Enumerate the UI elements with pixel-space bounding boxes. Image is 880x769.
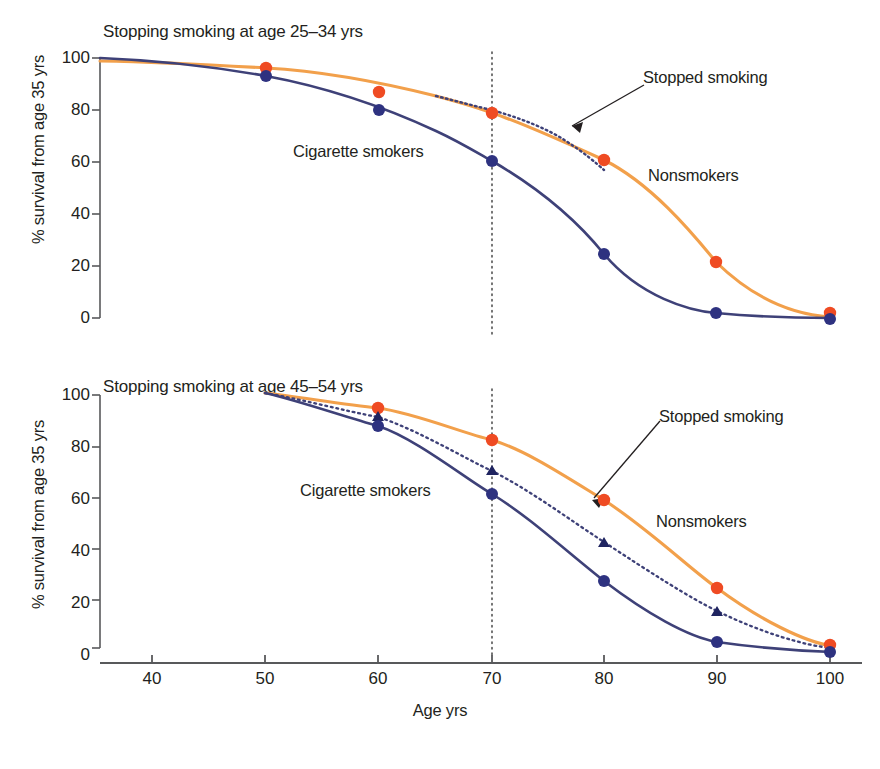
chart-panel-top: Stopping smoking at age 25–34 yrs % surv… xyxy=(0,0,880,355)
panel-top-stopped-smoking-arrowhead xyxy=(572,122,583,133)
panel-top-markers-nonsmokers xyxy=(260,62,836,319)
panel-bottom-x-axis xyxy=(100,655,862,663)
panel-top-label-cigarette-smokers: Cigarette smokers xyxy=(293,142,423,161)
panel-top-series-smokers-line xyxy=(100,58,830,318)
panel-bottom-xtick-50: 50 xyxy=(242,669,288,689)
panel-top-series-stopped-line xyxy=(436,96,604,170)
panel-bottom-series-nonsmokers-line xyxy=(265,393,832,646)
panel-bottom-xtick-80: 80 xyxy=(581,669,627,689)
panel-top-series-nonsmokers-line xyxy=(100,61,830,317)
panel-top-y-axis xyxy=(92,58,100,318)
panel-top-label-nonsmokers: Nonsmokers xyxy=(648,166,739,185)
panel-bottom-markers-nonsmokers xyxy=(372,402,836,651)
panel-bottom-series-smokers-line xyxy=(265,393,832,652)
panel-bottom-label-stopped-smoking: Stopped smoking xyxy=(659,407,784,426)
panel-bottom-label-nonsmokers: Nonsmokers xyxy=(656,512,747,531)
panel-bottom-plot xyxy=(0,355,880,695)
panel-bottom-xtick-60: 60 xyxy=(355,669,401,689)
panel-bottom-xtick-70: 70 xyxy=(469,669,515,689)
panel-top-label-stopped-smoking: Stopped smoking xyxy=(643,68,768,87)
panel-top-plot xyxy=(0,0,880,355)
panel-bottom-label-cigarette-smokers: Cigarette smokers xyxy=(300,481,430,500)
panel-bottom-stopped-smoking-arrow xyxy=(594,421,660,498)
panel-bottom-xtick-90: 90 xyxy=(694,669,740,689)
panel-top-stopped-smoking-arrow xyxy=(572,85,644,126)
chart-panel-bottom: Stopping smoking at age 45–54 yrs % surv… xyxy=(0,355,880,695)
panel-bottom-xtick-40: 40 xyxy=(129,669,175,689)
panel-bottom-y-axis xyxy=(92,395,100,648)
panel-bottom-x-axis-label: Age yrs xyxy=(0,701,880,720)
panel-bottom-xtick-100: 100 xyxy=(807,669,853,689)
figure-survival-curves: Stopping smoking at age 25–34 yrs % surv… xyxy=(0,0,880,769)
